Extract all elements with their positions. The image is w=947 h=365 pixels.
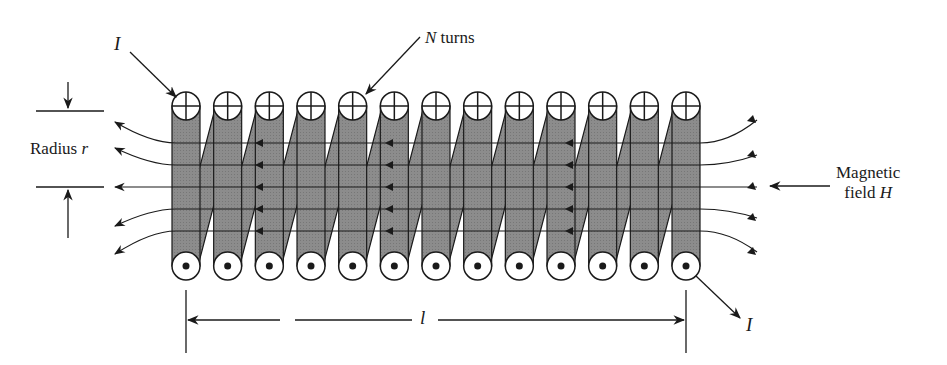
coil-windings <box>172 92 700 280</box>
n-turns-label: N turns <box>425 28 475 48</box>
current-out-of-page-icon <box>589 252 617 280</box>
current-into-page-icon <box>505 92 533 120</box>
length-label: l <box>420 308 425 328</box>
current-out-of-page-icon <box>464 252 492 280</box>
current-into-page-icon <box>672 92 700 120</box>
winding-front <box>422 106 450 266</box>
current-out-of-page-icon <box>672 252 700 280</box>
current-into-page-icon <box>464 92 492 120</box>
winding-front <box>339 106 367 266</box>
magnetic-field-line1: Magnetic <box>836 163 900 183</box>
field-symbol: H <box>880 183 892 202</box>
current-into-page-icon <box>547 92 575 120</box>
current-out-of-page-icon <box>297 252 325 280</box>
winding-front <box>589 106 617 266</box>
current-out-of-page-icon <box>172 252 200 280</box>
current-into-page-icon <box>214 92 242 120</box>
current-out-of-page-icon <box>255 252 283 280</box>
magnetic-field-line2: field H <box>836 183 900 203</box>
current-into-page-icon <box>172 92 200 120</box>
radius-label: Radius r <box>30 139 88 159</box>
current-out-of-page-icon <box>422 252 450 280</box>
winding-front <box>672 106 700 266</box>
winding-front <box>214 106 242 266</box>
current-into-page-icon <box>297 92 325 120</box>
current-into-page-icon <box>422 92 450 120</box>
current-out-of-page-icon <box>505 252 533 280</box>
current-out-of-page-icon <box>380 252 408 280</box>
current-in-label: I <box>114 34 120 54</box>
n-turns-text: turns <box>436 28 474 47</box>
radius-text: Radius <box>30 139 81 158</box>
n-symbol: N <box>425 28 436 47</box>
winding-front <box>505 106 533 266</box>
current-out-label: I <box>746 315 752 335</box>
current-out-of-page-icon <box>339 252 367 280</box>
magnetic-field-label: Magnetic field H <box>836 163 900 203</box>
winding-front <box>172 106 200 266</box>
winding-front <box>297 106 325 266</box>
solenoid-diagram <box>0 0 947 365</box>
current-into-page-icon <box>339 92 367 120</box>
winding-front <box>380 106 408 266</box>
current-out-of-page-icon <box>547 252 575 280</box>
field-arrowhead <box>747 115 756 123</box>
current-into-page-icon <box>380 92 408 120</box>
radius-symbol: r <box>81 139 88 158</box>
field-arrowhead <box>747 182 756 190</box>
current-into-page-icon <box>630 92 658 120</box>
current-into-page-icon <box>589 92 617 120</box>
winding-front <box>630 106 658 266</box>
current-out-of-page-icon <box>630 252 658 280</box>
current-out-of-page-icon <box>214 252 242 280</box>
field-arrowhead <box>747 150 756 158</box>
winding-front <box>464 106 492 266</box>
current-into-page-icon <box>255 92 283 120</box>
